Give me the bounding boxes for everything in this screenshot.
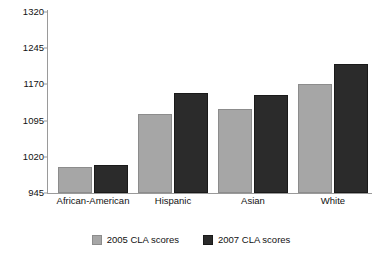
y-axis-tick-label: 1245 — [4, 43, 44, 53]
bar-group — [218, 12, 288, 193]
y-axis-tick-mark — [44, 84, 48, 85]
bar-2005 — [58, 167, 92, 193]
bar-2007 — [254, 95, 288, 193]
legend-label-2007: 2007 CLA scores — [218, 234, 290, 245]
y-axis-tick-mark — [44, 193, 48, 194]
y-axis-tick-mark — [44, 48, 48, 49]
bar-2007 — [94, 165, 128, 193]
bar-2005 — [138, 114, 172, 193]
bar-group — [298, 12, 368, 193]
legend-item-2005: 2005 CLA scores — [92, 234, 179, 245]
y-axis-tick-labels: 94510201095117012451320 — [0, 0, 44, 266]
gray-swatch-icon — [92, 235, 102, 245]
y-axis-tick-mark — [44, 156, 48, 157]
y-axis-tick-mark — [44, 12, 48, 13]
bar-2007 — [334, 64, 368, 193]
y-axis-tick-label: 1170 — [4, 80, 44, 90]
y-axis-tick-label: 1320 — [4, 7, 44, 17]
x-axis-label: White — [278, 196, 382, 206]
dark-swatch-icon — [203, 235, 213, 245]
y-axis-tick-mark — [44, 120, 48, 121]
x-axis-line — [47, 193, 372, 194]
y-axis-tick-label: 1020 — [4, 152, 44, 162]
bar-2005 — [218, 109, 252, 193]
bar-group — [58, 12, 128, 193]
y-axis-tick-label: 1095 — [4, 116, 44, 126]
bar-2007 — [174, 93, 208, 193]
legend-label-2005: 2005 CLA scores — [107, 234, 179, 245]
bar-group — [138, 12, 208, 193]
y-axis-line — [47, 10, 48, 194]
bar-2005 — [298, 84, 332, 193]
chart-legend: 2005 CLA scores 2007 CLA scores — [0, 234, 382, 245]
legend-item-2007: 2007 CLA scores — [203, 234, 290, 245]
bar-chart: 94510201095117012451320 African-American… — [0, 0, 382, 266]
